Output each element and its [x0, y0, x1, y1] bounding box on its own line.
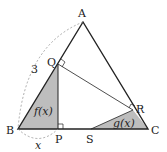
- dimension-arc-bp: [18, 129, 58, 139]
- right-angle-p: [58, 124, 63, 129]
- label-p: P: [55, 133, 63, 146]
- label-r: R: [136, 103, 145, 116]
- label-q: Q: [47, 56, 56, 69]
- label-b: B: [6, 124, 14, 137]
- label-s: S: [86, 133, 94, 146]
- label-g-of-x: g(x): [113, 117, 135, 130]
- label-length-x: x: [35, 139, 42, 152]
- label-c: C: [151, 124, 159, 137]
- label-length-3: 3: [31, 63, 38, 76]
- label-f-of-x: f(x): [33, 105, 53, 118]
- triangle-diagram: A B C Q P R S 3 x f(x) g(x): [0, 0, 167, 152]
- label-a: A: [77, 7, 87, 20]
